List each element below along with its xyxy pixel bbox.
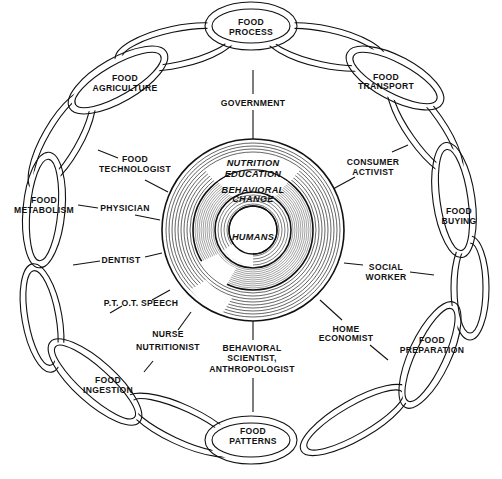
food-buying-line1: FOOD <box>446 206 472 216</box>
label-nurse-nutritionist-line2: NUTRITIONIST <box>136 342 200 352</box>
food-ingestion-line1: FOOD <box>95 375 121 385</box>
food-process-line1: FOOD <box>238 17 264 27</box>
food-preparation-line1: FOOD <box>419 335 445 345</box>
label-pt-ot-speech: P.T. O.T. SPEECH <box>104 298 178 308</box>
label-behavioral-scientist-line2: SCIENTIST, <box>227 353 276 363</box>
label-nutrition-line1: NUTRITION <box>227 158 280 168</box>
label-nutrition-line2: EDUCATION <box>225 169 282 179</box>
label-government: GOVERNMENT <box>221 98 286 108</box>
chain-link-food-buying <box>425 140 483 261</box>
label-consumer-activist-line1: CONSUMER <box>347 157 400 167</box>
food-patterns-line1: FOOD <box>240 426 266 436</box>
label-consumer-activist-line2: ACTIVIST <box>352 167 394 177</box>
label-food-technologist-line1: FOOD <box>122 154 148 164</box>
food-ingestion-line2: INGESTION <box>83 385 133 395</box>
food-process-line2: PROCESS <box>229 27 273 37</box>
label-food-technologist-line2: TECHNOLOGIST <box>99 164 171 174</box>
food-chain-diagram: NUTRITION EDUCATION BEHAVIORAL CHANGE HU… <box>0 0 502 479</box>
label-dentist: DENTIST <box>102 255 141 265</box>
label-social-worker-line1: SOCIAL <box>369 262 403 272</box>
label-behavioral-scientist-line1: BEHAVIORAL <box>222 343 281 353</box>
label-nurse-nutritionist-line1: NURSE <box>152 329 184 339</box>
food-agriculture-line2: AGRICULTURE <box>92 83 157 93</box>
central-target: NUTRITION EDUCATION BEHAVIORAL CHANGE HU… <box>162 139 344 321</box>
label-humans: HUMANS <box>232 232 275 242</box>
label-social-worker-line2: WORKER <box>366 272 407 282</box>
food-preparation-line2: PREPARATION <box>400 345 465 355</box>
label-home-economist-line2: ECONOMIST <box>319 333 374 343</box>
food-buying-line2: BUYING <box>441 216 476 226</box>
food-metabolism-line1: FOOD <box>31 195 57 205</box>
food-patterns-line2: PATTERNS <box>229 436 276 446</box>
food-transport-line2: TRANSPORT <box>358 81 415 91</box>
label-behavioral-scientist-line3: ANTHROPOLOGIST <box>209 364 295 374</box>
food-agriculture-line1: FOOD <box>112 73 138 83</box>
label-physician: PHYSICIAN <box>100 203 150 213</box>
label-behavioral-change-line2: CHANGE <box>232 194 274 204</box>
chain-link-food-preparation <box>386 294 473 417</box>
food-metabolism-line2: METABOLISM <box>14 205 74 215</box>
